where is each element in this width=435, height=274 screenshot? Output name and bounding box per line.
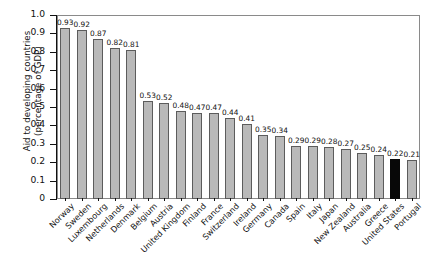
bar-slot: 0.28 — [324, 15, 334, 199]
bar[interactable] — [60, 28, 70, 199]
bar[interactable] — [110, 48, 120, 199]
bar[interactable] — [77, 30, 87, 199]
bar[interactable] — [242, 124, 252, 199]
bar-slot: 0.29 — [291, 15, 301, 199]
bar-value-label: 0.29 — [288, 136, 304, 145]
bar[interactable] — [126, 50, 136, 199]
bar-value-label: 0.44 — [222, 108, 238, 117]
y-tick-label: 0.3 — [30, 137, 45, 148]
bar[interactable] — [407, 160, 417, 199]
bar-value-label: 0.52 — [156, 93, 172, 102]
bar-value-label: 0.24 — [371, 145, 387, 154]
bar-slot: 0.47 — [209, 15, 219, 199]
x-tick-mark — [395, 198, 396, 201]
bar-value-label: 0.34 — [272, 126, 288, 135]
y-tick-label: 0.8 — [30, 45, 45, 56]
bar-value-label: 0.41 — [239, 114, 255, 123]
x-tick-mark — [148, 198, 149, 201]
x-tick-mark — [346, 198, 347, 201]
y-tick-mark — [50, 162, 57, 163]
y-tick-mark — [50, 199, 57, 200]
y-tick-mark — [50, 144, 57, 145]
bar-value-label: 0.48 — [173, 101, 189, 110]
x-tick-mark — [379, 198, 380, 201]
bar-value-label: 0.35 — [255, 125, 271, 134]
y-tick-mark — [50, 15, 57, 16]
bar-slot: 0.29 — [308, 15, 318, 199]
bar-chart: Aid to developing countries (percentage … — [0, 0, 435, 274]
bar-slot: 0.22 — [390, 15, 400, 199]
bar[interactable] — [143, 101, 153, 199]
bar[interactable] — [341, 149, 351, 199]
x-tick-mark — [263, 198, 264, 201]
y-tick-mark — [50, 181, 57, 182]
x-tick-mark — [329, 198, 330, 201]
bar-value-label: 0.82 — [107, 38, 123, 47]
x-tick-mark — [247, 198, 248, 201]
bar[interactable] — [324, 147, 334, 199]
x-tick-mark — [164, 198, 165, 201]
x-tick-mark — [280, 198, 281, 201]
x-tick-mark — [214, 198, 215, 201]
bar[interactable] — [275, 136, 285, 199]
bar-slot: 0.82 — [110, 15, 120, 199]
bar[interactable] — [374, 155, 384, 199]
bar[interactable] — [192, 113, 202, 199]
x-tick-mark — [65, 198, 66, 201]
bar-value-label: 0.22 — [387, 149, 403, 158]
x-tick-mark — [82, 198, 83, 201]
y-tick-label: 0.5 — [30, 100, 45, 111]
bar-value-label: 0.28 — [321, 137, 337, 146]
bar-slot: 0.47 — [192, 15, 202, 199]
y-tick-mark — [50, 52, 57, 53]
bar-slot: 0.27 — [341, 15, 351, 199]
bar[interactable] — [390, 159, 400, 199]
x-tick-mark — [181, 198, 182, 201]
bar[interactable] — [357, 153, 367, 199]
y-tick-label: 0 — [39, 192, 45, 203]
bar-slot: 0.24 — [374, 15, 384, 199]
bar-slot: 0.34 — [275, 15, 285, 199]
x-tick-mark — [98, 198, 99, 201]
bar-value-label: 0.25 — [354, 143, 370, 152]
y-tick-mark — [50, 107, 57, 108]
bar-slot: 0.48 — [176, 15, 186, 199]
bar-value-label: 0.47 — [206, 103, 222, 112]
bar[interactable] — [176, 111, 186, 199]
bar[interactable] — [258, 135, 268, 199]
y-tick-label: 0.1 — [30, 174, 45, 185]
bar-value-label: 0.27 — [338, 139, 354, 148]
bar-value-label: 0.21 — [404, 150, 420, 159]
bar-slot: 0.44 — [225, 15, 235, 199]
x-tick-mark — [197, 198, 198, 201]
y-tick-label: 0.7 — [30, 63, 45, 74]
bar-value-label: 0.81 — [123, 40, 139, 49]
y-tick-mark — [50, 89, 57, 90]
bar-value-label: 0.53 — [140, 91, 156, 100]
bar[interactable] — [209, 113, 219, 199]
bar-value-label: 0.47 — [189, 103, 205, 112]
bar[interactable] — [308, 146, 318, 199]
x-tick-mark — [230, 198, 231, 201]
bar-value-label: 0.92 — [74, 20, 90, 29]
x-tick-mark — [313, 198, 314, 201]
bar-slot: 0.25 — [357, 15, 367, 199]
bar-slot: 0.92 — [77, 15, 87, 199]
bar-slot: 0.41 — [242, 15, 252, 199]
bar-slot: 0.81 — [126, 15, 136, 199]
bar-slot: 0.35 — [258, 15, 268, 199]
x-tick-mark — [362, 198, 363, 201]
bar-value-label: 0.87 — [90, 29, 106, 38]
bar[interactable] — [291, 146, 301, 199]
x-axis-labels: NorwaySwedenLuxembourgNetherlandsDenmark… — [57, 201, 420, 274]
y-tick-label: 0.2 — [30, 155, 45, 166]
x-tick-mark — [412, 198, 413, 201]
y-tick-label: 1.0 — [30, 8, 45, 19]
bars-layer: 0.930.920.870.820.810.530.520.480.470.47… — [57, 15, 420, 199]
bar[interactable] — [159, 103, 169, 199]
bar[interactable] — [225, 118, 235, 199]
y-tick-mark — [50, 125, 57, 126]
bar[interactable] — [93, 39, 103, 199]
x-tick-mark — [115, 198, 116, 201]
x-tick-mark — [131, 198, 132, 201]
